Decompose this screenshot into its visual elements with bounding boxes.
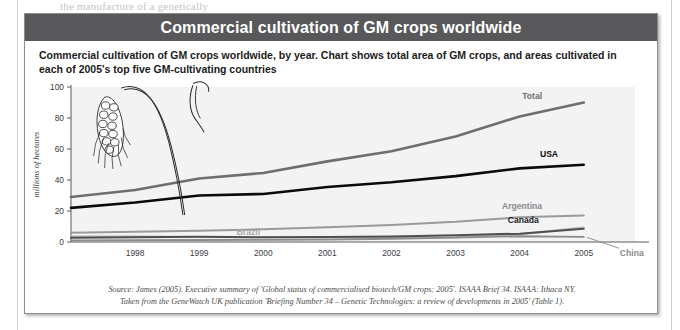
figure-title: Commercial cultivation of GM crops world… xyxy=(161,19,522,37)
figure-box: Commercial cultivation of GM crops world… xyxy=(24,13,658,314)
series-label-canada: Canada xyxy=(508,214,539,224)
x-tick-label: 2005 xyxy=(574,248,593,258)
x-tick-label: 2002 xyxy=(382,248,401,258)
x-tick-label: 2001 xyxy=(318,248,337,258)
series-label-total: Total xyxy=(522,91,542,101)
figure-description: Commercial cultivation of GM crops world… xyxy=(25,41,657,79)
x-tick-label: 1998 xyxy=(126,248,145,258)
page-right-rule xyxy=(671,0,672,330)
figure-source: Source: James (2005). Executive summary … xyxy=(25,284,659,308)
y-tick-label: 20 xyxy=(55,206,65,216)
y-tick-label: 40 xyxy=(55,175,65,185)
line-chart: 020406080100millions of hectares19981999… xyxy=(25,79,659,274)
y-tick-label: 80 xyxy=(55,113,65,123)
source-line-2: Taken from the GeneWatch UK publication … xyxy=(25,296,659,308)
page-left-rule xyxy=(17,0,18,330)
y-tick-label: 100 xyxy=(50,82,64,92)
x-tick-label: 2003 xyxy=(446,248,465,258)
source-line-1: Source: James (2005). Executive summary … xyxy=(25,284,659,296)
series-label-argentina: Argentina xyxy=(502,200,542,210)
figure-header: Commercial cultivation of GM crops world… xyxy=(25,14,657,41)
y-axis-title: millions of hectares xyxy=(32,131,41,197)
series-label-brazil: Brazil xyxy=(237,227,260,237)
x-tick-label: 2004 xyxy=(510,248,529,258)
y-tick-label: 0 xyxy=(59,237,64,247)
x-tick-label: 2000 xyxy=(254,248,273,258)
series-label-china: China xyxy=(620,248,644,258)
series-label-usa: USA xyxy=(540,148,558,158)
page-bleed-text: the manufacture of a genetically xyxy=(0,0,680,14)
x-tick-label: 1999 xyxy=(190,248,209,258)
y-tick-label: 60 xyxy=(55,144,65,154)
plot-area: 020406080100millions of hectares19981999… xyxy=(25,79,659,274)
